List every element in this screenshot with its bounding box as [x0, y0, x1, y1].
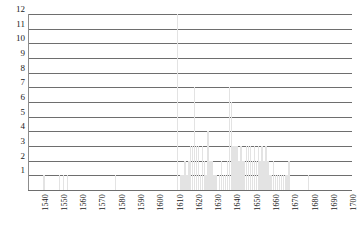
x-axis-tick-label: 1670	[292, 194, 300, 211]
bar	[67, 175, 68, 190]
x-axis-tick-label: 1610	[177, 194, 185, 211]
gridline-8	[28, 73, 352, 74]
x-axis-tick-label: 1700	[350, 194, 358, 211]
y-axis-tick-label: 6	[21, 92, 26, 102]
y-axis-tick-label: 1	[21, 165, 26, 175]
bar	[308, 175, 309, 190]
x-axis-tick-label: 1570	[99, 194, 107, 211]
x-axis-tick-label: 1630	[215, 194, 223, 211]
y-axis-tick-label: 12	[16, 4, 25, 14]
x-axis-tick-label: 1540	[42, 194, 50, 211]
y-axis-tick-label: 9	[21, 48, 26, 58]
x-axis-tick-label: 1620	[196, 194, 204, 211]
x-axis-tick-label: 1590	[138, 194, 146, 211]
y-axis-tick-label: 11	[16, 19, 25, 29]
y-axis-tick-label: 4	[21, 121, 26, 131]
gridline-11	[28, 29, 352, 30]
x-axis-tick-label: 1550	[61, 194, 69, 211]
bar	[215, 175, 216, 190]
y-axis-tick-label: 3	[21, 136, 26, 146]
bar	[177, 14, 178, 190]
gridline-5	[28, 117, 352, 118]
y-axis-tick-label: 8	[21, 63, 26, 73]
histogram-chart: 121110987654321 154015501560157015801590…	[0, 0, 358, 236]
bar	[59, 175, 60, 190]
bar	[288, 161, 289, 190]
bar	[115, 175, 116, 190]
x-axis-tick-label: 1580	[119, 194, 127, 211]
plot-area: 121110987654321	[28, 4, 352, 190]
y-axis-tick-label: 10	[16, 33, 25, 43]
bar	[43, 175, 44, 190]
gridline-6	[28, 102, 352, 103]
x-axis-tick-label: 1680	[312, 194, 320, 211]
gridline-9	[28, 58, 352, 59]
x-axis-line	[28, 190, 352, 191]
gridline-4	[28, 131, 352, 132]
x-axis-tick-label: 1660	[273, 194, 281, 211]
x-axis-tick-label: 1560	[80, 194, 88, 211]
y-axis-tick-label: 5	[21, 107, 26, 117]
y-axis-tick-label: 7	[21, 77, 26, 87]
x-axis-tick-label: 1640	[234, 194, 242, 211]
bar	[63, 175, 64, 190]
x-axis-tick-label: 1690	[331, 194, 339, 211]
y-axis-line	[28, 14, 29, 190]
gridline-12	[28, 14, 352, 15]
gridline-10	[28, 43, 352, 44]
y-axis-tick-label: 2	[21, 151, 26, 161]
x-axis-tick-label: 1650	[254, 194, 262, 211]
x-axis-tick-label: 1600	[157, 194, 165, 211]
gridline-7	[28, 87, 352, 88]
